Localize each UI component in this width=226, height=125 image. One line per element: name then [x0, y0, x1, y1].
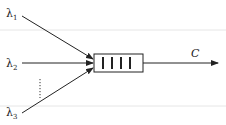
queue-slots — [103, 57, 130, 69]
input-label-1: λ1 — [6, 7, 17, 22]
output-capacity-label: C — [191, 47, 200, 60]
input-label-2: λ2 — [6, 57, 17, 72]
input-label-3: λ3 — [6, 106, 17, 121]
input-arrow-1 — [22, 16, 93, 59]
queue-buffer — [94, 54, 143, 72]
multiplexer-diagram: λ1 λ2 λ3 C — [0, 0, 226, 125]
